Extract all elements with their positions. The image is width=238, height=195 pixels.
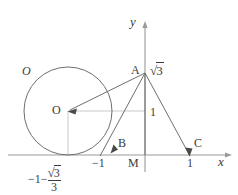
label-tangent-point-x: −1− √3 3 xyxy=(28,165,61,193)
radicand-value: 3 xyxy=(156,62,164,78)
circle-name-label: O xyxy=(22,65,31,77)
tick-label-one: 1 xyxy=(187,157,193,169)
x-axis-label: x xyxy=(218,155,224,168)
label-segment-am-length: 1 xyxy=(150,106,156,118)
arrowhead-to-point-b xyxy=(111,145,119,154)
point-o-label: O xyxy=(52,104,61,116)
radicand-value: 3 xyxy=(54,165,61,180)
label-a-height-sqrt3: √3 xyxy=(150,63,164,77)
point-c-label: C xyxy=(194,137,202,149)
x-axis-arrowhead xyxy=(225,152,232,157)
point-a-label: A xyxy=(131,64,140,76)
label-tangent-lead: −1− xyxy=(28,173,48,185)
tick-label-minus-one: −1 xyxy=(92,157,105,169)
fraction-sqrt3-over-3: √3 3 xyxy=(48,165,61,193)
fraction-numerator: √3 xyxy=(48,165,61,180)
line-segment-a-to-o xyxy=(70,73,145,110)
point-m-label: M xyxy=(128,157,139,169)
y-axis-label: y xyxy=(130,15,136,28)
y-axis-arrowhead xyxy=(142,21,147,28)
fraction-denominator: 3 xyxy=(48,180,61,194)
point-b-label: B xyxy=(118,137,126,149)
